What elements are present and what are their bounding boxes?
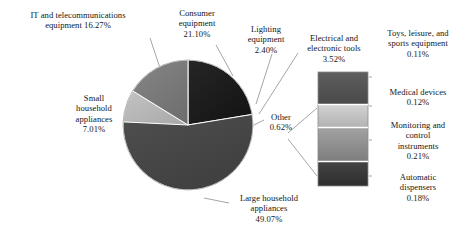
label-it-telecommunications: IT and telecommunications equipment 16.2… [4, 10, 152, 31]
leader-tools [259, 53, 298, 114]
pie-chart-figure: IT and telecommunications equipment 16.2… [0, 0, 465, 241]
label-electrical-electronic-tools: Electrical and electronic tools 3.52% [297, 33, 371, 64]
label-lighting-equipment: Lighting equipment 2.40% [233, 24, 299, 55]
leader-lighting [256, 54, 272, 104]
breakout-segment-monitoring-instruments [318, 128, 368, 161]
leader-other-out-bottom [288, 139, 317, 176]
label-automatic-dispensers: Automatic dispensers 0.18% [372, 172, 464, 203]
label-medical-devices: Medical devices 0.12% [372, 87, 464, 108]
pie-slices [123, 60, 253, 190]
label-consumer-equipment: Consumer equipment 21.10% [160, 8, 234, 39]
label-large-household-appliances: Large household appliances 49.07% [222, 193, 316, 224]
label-other: Other 0.62% [259, 112, 303, 133]
label-small-household-appliances: Small household appliances 7.01% [57, 93, 131, 134]
breakout-segment-medical-devices [318, 105, 368, 127]
label-toys-leisure-sports: Toys, leisure, and sports equipment 0.11… [372, 28, 464, 59]
breakout-segment-automatic-dispensers [318, 162, 368, 186]
label-monitoring-control-instruments: Monitoring and control instruments 0.21% [372, 120, 464, 161]
breakout-segment-toys [318, 72, 368, 104]
other-breakout-column [318, 72, 368, 186]
